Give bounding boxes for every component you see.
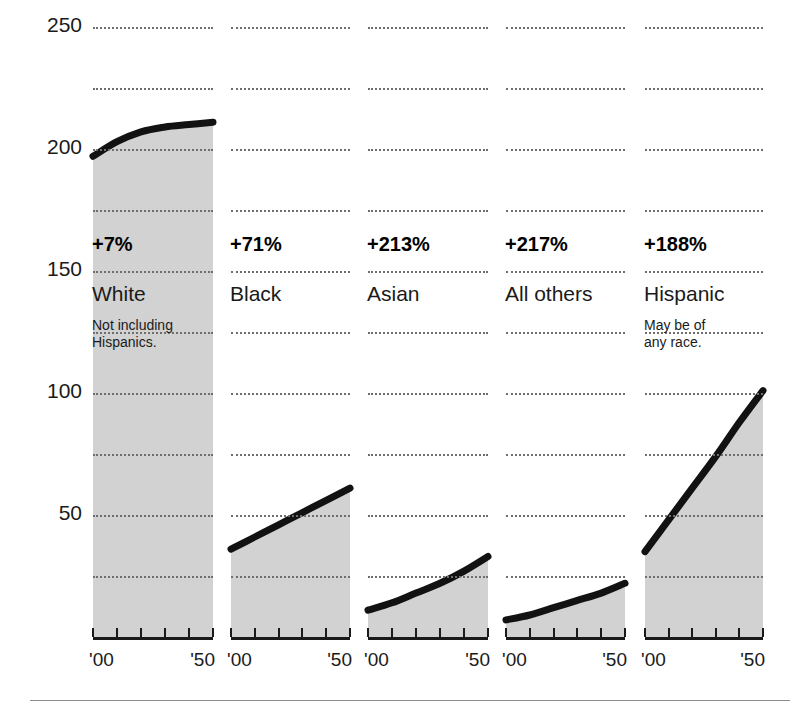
x-axis-label-start: '00 xyxy=(364,649,389,671)
gridline xyxy=(506,88,625,90)
gridline xyxy=(231,576,350,578)
gridline xyxy=(368,271,488,273)
gridline xyxy=(231,332,350,334)
gridline xyxy=(231,271,350,273)
gridline xyxy=(506,27,625,29)
gridline xyxy=(645,210,763,212)
gridline xyxy=(645,393,763,395)
x-axis-tick xyxy=(367,628,369,637)
series-area-all-others xyxy=(506,583,625,637)
gridline xyxy=(645,27,763,29)
panel-group-name: Hispanic xyxy=(644,282,725,306)
gridline xyxy=(93,88,213,90)
gridline xyxy=(506,454,625,456)
x-axis-tick xyxy=(301,628,303,637)
x-axis-tick xyxy=(349,628,351,637)
x-axis-tick xyxy=(92,628,94,637)
x-axis-label-end: '50 xyxy=(575,649,627,671)
x-axis-label-end: '50 xyxy=(438,649,490,671)
gridline xyxy=(368,393,488,395)
gridline xyxy=(368,332,488,334)
x-axis-line xyxy=(506,637,625,640)
panel-change-label: +71% xyxy=(230,233,282,256)
footer-rule xyxy=(30,700,790,701)
y-axis-tick-label: 150 xyxy=(16,257,82,281)
x-axis-tick xyxy=(212,628,214,637)
panel-change-label: +217% xyxy=(505,233,568,256)
y-axis-tick-label: 250 xyxy=(16,13,82,37)
gridline xyxy=(231,149,350,151)
x-axis-tick xyxy=(188,628,190,637)
panel-group-note: May be of any race. xyxy=(644,317,705,351)
gridline xyxy=(368,454,488,456)
x-axis-tick xyxy=(762,628,764,637)
gridline xyxy=(368,515,488,517)
x-axis-tick xyxy=(600,628,602,637)
x-axis-tick xyxy=(715,628,717,637)
gridline xyxy=(368,210,488,212)
x-axis-label-end: '50 xyxy=(713,649,765,671)
x-axis-tick xyxy=(164,628,166,637)
gridline xyxy=(645,576,763,578)
x-axis-tick xyxy=(116,628,118,637)
x-axis-tick xyxy=(691,628,693,637)
gridline xyxy=(506,210,625,212)
panel-group-name: Black xyxy=(230,282,281,306)
x-axis-tick xyxy=(624,628,626,637)
x-axis-tick xyxy=(463,628,465,637)
gridline xyxy=(506,576,625,578)
x-axis-tick xyxy=(505,628,507,637)
x-axis-tick xyxy=(553,628,555,637)
gridline xyxy=(231,88,350,90)
x-axis-line xyxy=(93,637,213,640)
gridline xyxy=(645,149,763,151)
gridline xyxy=(645,454,763,456)
gridline xyxy=(645,88,763,90)
y-axis-tick-label: 200 xyxy=(16,135,82,159)
panel-group-note: Not including Hispanics. xyxy=(92,317,173,351)
x-axis-label-end: '50 xyxy=(163,649,215,671)
series-area-black xyxy=(231,488,350,637)
gridline xyxy=(93,576,213,578)
x-axis-tick xyxy=(644,628,646,637)
series-area-asian xyxy=(368,557,488,638)
x-axis-tick xyxy=(668,628,670,637)
gridline xyxy=(506,332,625,334)
gridline xyxy=(231,210,350,212)
x-axis-tick xyxy=(529,628,531,637)
gridline xyxy=(231,454,350,456)
gridline xyxy=(368,576,488,578)
gridline xyxy=(506,271,625,273)
x-axis-tick xyxy=(738,628,740,637)
x-axis-label-end: '50 xyxy=(300,649,352,671)
x-axis-line xyxy=(231,637,350,640)
series-area-white xyxy=(93,122,213,637)
gridline xyxy=(231,27,350,29)
x-axis-tick xyxy=(439,628,441,637)
x-axis-tick xyxy=(576,628,578,637)
x-axis-tick xyxy=(278,628,280,637)
series-line-hispanic xyxy=(645,391,763,552)
gridline xyxy=(506,393,625,395)
gridline xyxy=(93,210,213,212)
gridline xyxy=(93,393,213,395)
gridline xyxy=(231,515,350,517)
series-line-white xyxy=(93,122,213,156)
series-line-all-others xyxy=(506,583,625,620)
panel-change-label: +7% xyxy=(92,233,133,256)
x-axis-tick xyxy=(254,628,256,637)
x-axis-tick xyxy=(230,628,232,637)
series-line-black xyxy=(231,488,350,549)
gridline xyxy=(645,271,763,273)
panel-group-name: White xyxy=(92,282,146,306)
x-axis-tick xyxy=(487,628,489,637)
gridline xyxy=(368,27,488,29)
gridline xyxy=(368,149,488,151)
gridline xyxy=(93,515,213,517)
x-axis-label-start: '00 xyxy=(227,649,252,671)
series-area-hispanic xyxy=(645,391,763,637)
x-axis-tick xyxy=(415,628,417,637)
gridline xyxy=(93,149,213,151)
y-axis-tick-label: 100 xyxy=(16,379,82,403)
small-multiples-chart: 50100150200250'00'50+7%WhiteNot includin… xyxy=(0,0,811,715)
